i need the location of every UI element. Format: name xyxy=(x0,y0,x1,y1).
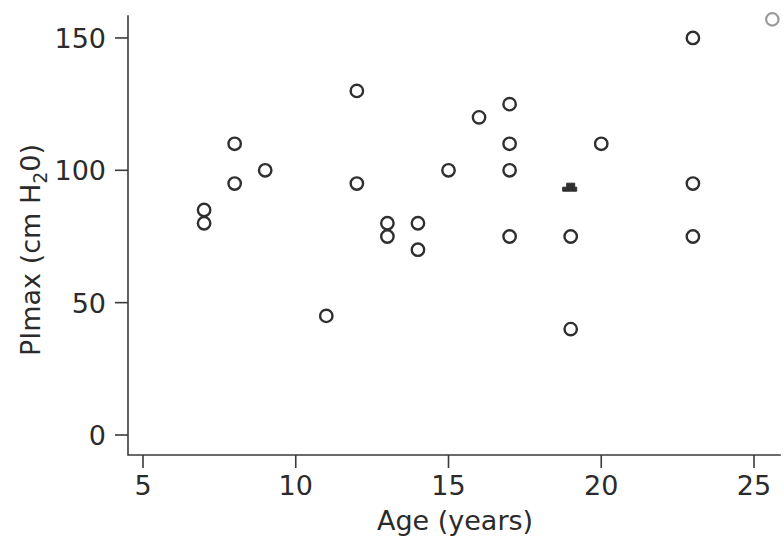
x-tick-label-15: 15 xyxy=(431,470,465,501)
plot-canvas: 050100150 510152025 PImax (cm H20) Age (… xyxy=(0,0,784,548)
x-axis-tick-labels: 510152025 xyxy=(134,470,771,501)
axis-spines xyxy=(128,16,780,455)
data-point xyxy=(412,244,424,256)
x-tick-label-20: 20 xyxy=(584,470,618,501)
y-tick-label-0: 0 xyxy=(89,420,106,451)
y-axis-tick-labels: 050100150 xyxy=(54,23,106,451)
edge-artifact-mark xyxy=(766,13,778,25)
data-point xyxy=(595,138,607,150)
y-axis-title-suffix: 0) xyxy=(15,144,46,172)
data-point xyxy=(503,98,515,110)
y-tick-label-150: 150 xyxy=(54,23,106,54)
y-axis-title-prefix: PImax (cm H xyxy=(15,184,46,356)
data-point xyxy=(259,164,271,176)
x-axis-ticks xyxy=(143,455,754,468)
data-point xyxy=(228,177,240,189)
x-tick-label-10: 10 xyxy=(279,470,313,501)
data-point xyxy=(320,310,332,322)
y-tick-label-100: 100 xyxy=(54,155,106,186)
data-point xyxy=(687,230,699,242)
data-point xyxy=(228,138,240,150)
data-point xyxy=(503,138,515,150)
data-point xyxy=(473,111,485,123)
data-point xyxy=(503,230,515,242)
x-tick-label-25: 25 xyxy=(737,470,771,501)
y-tick-label-50: 50 xyxy=(72,288,106,319)
data-point xyxy=(198,217,210,229)
data-point xyxy=(503,164,515,176)
axes-group xyxy=(115,16,780,468)
data-point xyxy=(565,323,577,335)
x-tick-label-5: 5 xyxy=(134,470,151,501)
y-axis-title: PImax (cm H20) xyxy=(15,144,51,356)
svg-text:PImax (cm H20): PImax (cm H20) xyxy=(15,144,51,356)
data-point-markers xyxy=(198,32,699,336)
data-point xyxy=(687,177,699,189)
x-axis-title: Age (years) xyxy=(377,505,533,536)
data-point xyxy=(565,230,577,242)
data-point xyxy=(381,230,393,242)
data-point xyxy=(351,85,363,97)
data-point xyxy=(351,177,363,189)
data-point xyxy=(412,217,424,229)
edge-artifact-circle xyxy=(766,13,778,25)
data-point xyxy=(198,204,210,216)
y-axis-ticks xyxy=(115,38,128,435)
data-point xyxy=(381,217,393,229)
data-point xyxy=(442,164,454,176)
data-point xyxy=(687,32,699,44)
data-point xyxy=(563,183,577,191)
scatter-plot-figure: 050100150 510152025 PImax (cm H20) Age (… xyxy=(0,0,784,548)
y-axis-title-subscript: 2 xyxy=(29,172,51,184)
